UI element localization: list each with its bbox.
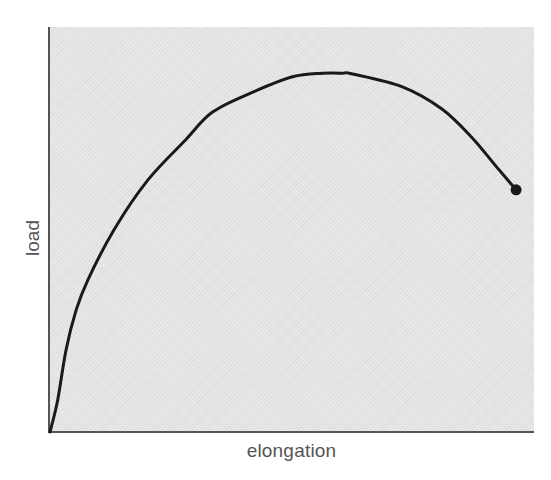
load-elongation-curve [50, 73, 516, 432]
load-elongation-chart: elongation load [0, 0, 551, 480]
fracture-point-marker [511, 184, 522, 195]
y-axis-label: load [22, 220, 44, 256]
curve-layer [0, 0, 551, 480]
x-axis-label: elongation [0, 440, 551, 462]
